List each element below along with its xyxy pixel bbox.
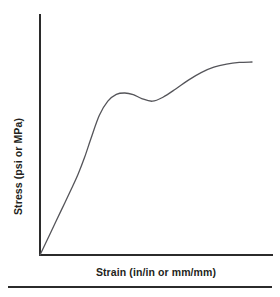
bottom-divider-rule — [8, 286, 272, 288]
stress-strain-curve-figure: Stress (psi or MPa) Strain (in/in or mm/… — [0, 0, 280, 297]
chart-canvas: Stress (psi or MPa) Strain (in/in or mm/… — [0, 0, 280, 297]
y-axis-label: Stress (psi or MPa) — [12, 118, 24, 215]
stress-strain-curve-path — [40, 62, 252, 255]
x-axis-label: Strain (in/in or mm/mm) — [96, 266, 216, 278]
